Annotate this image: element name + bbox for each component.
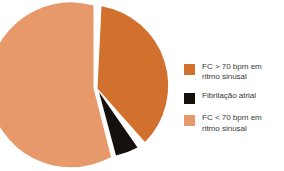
legend-color-swatch-icon [184,115,195,126]
pie-chart-graphic [0,0,180,171]
pie-svg [0,0,180,171]
legend-item-label: FC > 70 bpm em ritmo sinusal [202,62,262,82]
pie-chart-figure: FC > 70 bpm em ritmo sinusal Fibrilação … [0,0,284,171]
legend-item-fc-above-70[interactable]: FC > 70 bpm em ritmo sinusal [184,62,284,82]
legend-item-label: Fibrilação atrial [202,91,256,101]
chart-legend: FC > 70 bpm em ritmo sinusal Fibrilação … [184,62,284,143]
legend-item-fc-below-70[interactable]: FC < 70 bpm em ritmo sinusal [184,113,284,133]
legend-color-swatch-icon [184,64,195,75]
pie-slice-fc-below-70[interactable] [0,2,111,167]
legend-item-fibrilacao-atrial[interactable]: Fibrilação atrial [184,91,284,104]
legend-item-label: FC < 70 bpm em ritmo sinusal [202,113,262,133]
legend-color-swatch-icon [184,93,195,104]
